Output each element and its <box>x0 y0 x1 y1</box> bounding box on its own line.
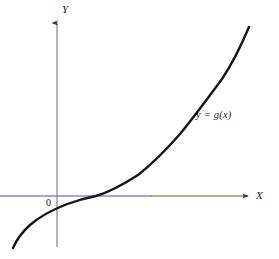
y-axis-label: Y <box>62 4 68 15</box>
function-curve <box>13 27 249 248</box>
x-axis-label: X <box>256 190 263 201</box>
origin-label: 0 <box>46 198 51 208</box>
function-graph-figure: Y X 0 y = g(x) <box>0 0 279 259</box>
curve-equation-label: y = g(x) <box>196 110 232 121</box>
plot-area <box>0 0 279 259</box>
